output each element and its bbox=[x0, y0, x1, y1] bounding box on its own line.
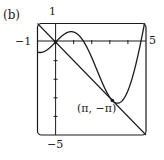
function-curve bbox=[38, 23, 145, 103]
origin-point bbox=[54, 40, 58, 44]
x-max-label: 5 bbox=[149, 35, 156, 46]
y-min-label: −5 bbox=[47, 139, 63, 150]
x-min-label: −1 bbox=[15, 36, 31, 47]
y-max-label: 1 bbox=[49, 6, 56, 17]
graph-plot bbox=[0, 0, 164, 160]
point-annotation: (π, −π) bbox=[77, 103, 116, 114]
